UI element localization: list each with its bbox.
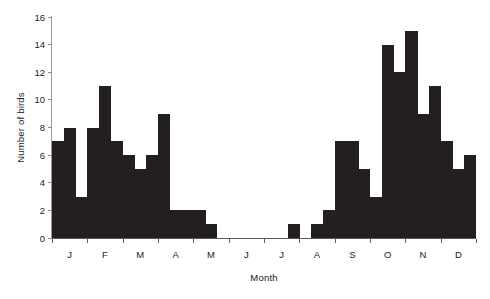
x-tick-mark [476, 239, 477, 243]
x-tick-mark [264, 239, 265, 243]
bar [87, 128, 99, 239]
y-tick-label: 8 [40, 121, 45, 134]
bar [52, 141, 64, 238]
y-tick-label: 10 [34, 93, 45, 106]
x-tick-mark [158, 239, 159, 243]
x-tick-label: M [130, 249, 150, 260]
bar [170, 210, 182, 238]
bar [76, 197, 88, 238]
x-axis-label: Month [52, 272, 476, 283]
bar [417, 114, 429, 238]
x-tick-label: O [378, 249, 398, 260]
bar [111, 141, 123, 238]
bar [394, 72, 406, 238]
bar [123, 155, 135, 238]
bar [452, 169, 464, 238]
bar [311, 224, 323, 238]
x-tick-label: A [307, 249, 327, 260]
bar [382, 45, 394, 238]
y-tick-label: 16 [34, 11, 45, 24]
y-tick-label: 14 [34, 38, 45, 51]
x-tick-mark [335, 239, 336, 243]
plot-area [52, 17, 476, 238]
bar [335, 141, 347, 238]
bar [146, 155, 158, 238]
bar [405, 31, 417, 238]
x-tick-label: M [201, 249, 221, 260]
bar [346, 141, 358, 238]
y-tick-label: 12 [34, 66, 45, 79]
x-tick-label: N [413, 249, 433, 260]
bar [134, 169, 146, 238]
x-tick-mark [123, 239, 124, 243]
x-tick-label: F [95, 249, 115, 260]
y-tick-label: 2 [40, 204, 45, 217]
bar [323, 210, 335, 238]
bar [370, 197, 382, 238]
x-tick-mark [229, 239, 230, 243]
y-tick-label: 4 [40, 176, 45, 189]
bar [205, 224, 217, 238]
bar [158, 114, 170, 238]
bar [182, 210, 194, 238]
x-tick-label: S [342, 249, 362, 260]
bar [193, 210, 205, 238]
x-tick-label: A [166, 249, 186, 260]
x-tick-mark [52, 239, 53, 243]
y-tick-label: 0 [40, 232, 45, 245]
bird-count-bar-chart: Number of birds 0246810121416 JFMAMJJASO… [0, 0, 490, 299]
y-tick-label: 6 [40, 149, 45, 162]
x-tick-mark [405, 239, 406, 243]
bar [429, 86, 441, 238]
bar [441, 141, 453, 238]
x-tick-label: J [60, 249, 80, 260]
bar [64, 128, 76, 239]
x-tick-mark [441, 239, 442, 243]
x-tick-label: J [272, 249, 292, 260]
bar [288, 224, 300, 238]
y-axis-label: Number of birds [14, 17, 28, 238]
x-tick-mark [87, 239, 88, 243]
bar [464, 155, 476, 238]
bar [358, 169, 370, 238]
bar [99, 86, 111, 238]
x-tick-label: J [236, 249, 256, 260]
x-tick-mark [299, 239, 300, 243]
x-tick-mark [193, 239, 194, 243]
x-tick-mark [370, 239, 371, 243]
x-tick-label: D [448, 249, 468, 260]
